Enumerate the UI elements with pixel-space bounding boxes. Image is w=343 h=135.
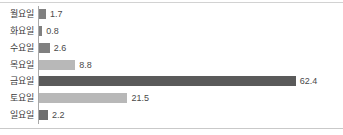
bar-row: 일요일 2.2 (0, 107, 343, 124)
value-label-friday: 62.4 (300, 73, 318, 90)
category-label-tuesday: 화요일 (0, 23, 34, 40)
bar-row: 화요일 0.8 (0, 23, 343, 40)
value-label-sunday: 2.2 (52, 107, 65, 124)
category-label-sunday: 일요일 (0, 107, 34, 124)
bar-row: 수요일 2.6 (0, 40, 343, 57)
bar-track: 1.7 (39, 6, 343, 23)
bar-sunday (39, 110, 48, 120)
category-label-thursday: 목요일 (0, 57, 34, 74)
bar-track: 21.5 (39, 90, 343, 107)
bar-track: 8.8 (39, 57, 343, 74)
category-label-saturday: 토요일 (0, 90, 34, 107)
value-label-monday: 1.7 (50, 6, 63, 23)
bar-chart: 월요일 1.7 화요일 0.8 수요일 2.6 목요일 8.8 (0, 0, 343, 135)
bar-saturday (39, 93, 127, 103)
bar-friday (39, 76, 296, 86)
bar-row: 목요일 8.8 (0, 57, 343, 74)
bar-track: 2.6 (39, 40, 343, 57)
category-label-monday: 월요일 (0, 6, 34, 23)
bar-thursday (39, 60, 75, 70)
value-label-wednesday: 2.6 (54, 40, 67, 57)
bar-tuesday (39, 26, 42, 36)
value-label-tuesday: 0.8 (46, 23, 59, 40)
category-label-friday: 금요일 (0, 73, 34, 90)
bar-row: 금요일 62.4 (0, 73, 343, 90)
bar-track: 2.2 (39, 107, 343, 124)
chart-top-rule (0, 2, 343, 3)
category-label-wednesday: 수요일 (0, 40, 34, 57)
bar-row: 월요일 1.7 (0, 6, 343, 23)
plot-area: 월요일 1.7 화요일 0.8 수요일 2.6 목요일 8.8 (0, 6, 343, 124)
value-label-saturday: 21.5 (131, 90, 149, 107)
chart-bottom-axis-rule (0, 128, 343, 129)
bar-wednesday (39, 43, 50, 53)
bar-track: 62.4 (39, 73, 343, 90)
value-label-thursday: 8.8 (79, 57, 92, 74)
bar-monday (39, 9, 46, 19)
bar-track: 0.8 (39, 23, 343, 40)
bar-row: 토요일 21.5 (0, 90, 343, 107)
